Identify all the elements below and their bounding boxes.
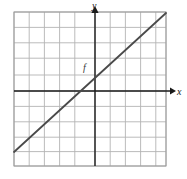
function-line-f (14, 13, 166, 152)
grid-horizontal-lines (14, 12, 166, 166)
grid-border (14, 12, 166, 166)
y-axis (91, 6, 98, 166)
graph-figure: y x f (0, 0, 187, 179)
x-axis-label: x (176, 86, 182, 97)
y-axis-label: y (91, 0, 97, 11)
coordinate-plane-plot: y x f (0, 0, 187, 179)
grid-vertical-lines (14, 12, 166, 166)
function-label-f: f (83, 62, 87, 73)
